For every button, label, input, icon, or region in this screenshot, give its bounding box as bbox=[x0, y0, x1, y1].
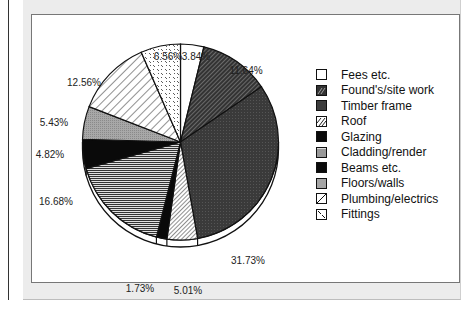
legend-item-beams-etc: Beams etc. bbox=[316, 160, 438, 176]
slice-percentage-label: 5.01% bbox=[174, 285, 202, 296]
legend-item-floors-walls: Floors/walls bbox=[316, 176, 438, 192]
slice-percentage-label: 4.82% bbox=[36, 149, 64, 160]
legend-label: Fees etc. bbox=[341, 69, 390, 81]
legend-label: Roof bbox=[341, 115, 366, 127]
slice-percentage-label: 3.84% bbox=[182, 51, 210, 62]
slice-percentage-label: 12.56% bbox=[67, 77, 101, 88]
legend-label: Plumbing/electrics bbox=[341, 193, 438, 205]
legend-swatch-icon bbox=[316, 162, 327, 173]
legend-item-glazing: Glazing bbox=[316, 129, 438, 145]
legend-item-cladding-render: Cladding/render bbox=[316, 145, 438, 161]
legend-item-found-s-site-work: Found's/site work bbox=[316, 83, 438, 99]
legend-item-timber-frame: Timber frame bbox=[316, 98, 438, 114]
slice-percentage-label: 31.73% bbox=[231, 255, 265, 266]
slice-percentage-label: 16.68% bbox=[39, 196, 73, 207]
legend-swatch-icon bbox=[316, 193, 327, 204]
legend-item-plumbing-electrics: Plumbing/electrics bbox=[316, 191, 438, 207]
legend-item-fees-etc: Fees etc. bbox=[316, 67, 438, 83]
legend-swatch-icon bbox=[316, 100, 327, 111]
legend-swatch-icon bbox=[316, 147, 327, 158]
legend-label: Cladding/render bbox=[341, 146, 426, 158]
legend-label: Glazing bbox=[341, 131, 382, 143]
legend-swatch-icon bbox=[316, 85, 327, 96]
legend-swatch-icon bbox=[316, 69, 327, 80]
slice-percentage-label: 5.43% bbox=[40, 117, 68, 128]
legend-label: Beams etc. bbox=[341, 162, 401, 174]
slice-percentage-label: 6.56% bbox=[154, 51, 182, 62]
legend-swatch-icon bbox=[316, 209, 327, 220]
slice-percentage-label: 1.73% bbox=[126, 283, 154, 294]
legend-swatch-icon bbox=[316, 178, 327, 189]
legend-label: Timber frame bbox=[341, 100, 412, 112]
legend-item-roof: Roof bbox=[316, 114, 438, 130]
chart-legend: Fees etc.Found's/site workTimber frameRo… bbox=[316, 67, 438, 222]
legend-label: Fittings bbox=[341, 208, 380, 220]
legend-swatch-icon bbox=[316, 116, 327, 127]
legend-label: Found's/site work bbox=[341, 84, 434, 96]
legend-item-fittings: Fittings bbox=[316, 207, 438, 223]
legend-label: Floors/walls bbox=[341, 177, 404, 189]
slice-percentage-label: 11.64% bbox=[229, 65, 262, 76]
legend-swatch-icon bbox=[316, 131, 327, 142]
